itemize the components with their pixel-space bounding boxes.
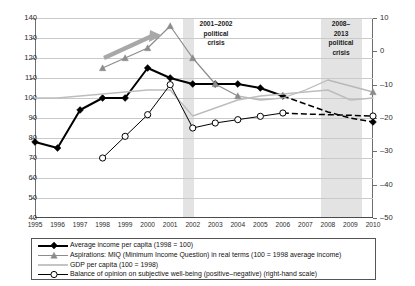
legend-key-marker xyxy=(48,270,60,279)
legend-label: Aspirations: MIQ (Minimum Income Questio… xyxy=(70,252,341,259)
series-marker xyxy=(122,133,128,139)
legend-key xyxy=(32,260,70,269)
series-marker xyxy=(99,65,105,71)
series-average-income-per-capita-1998-100 xyxy=(32,65,377,152)
legend-marker-glyph xyxy=(51,252,57,258)
series-marker xyxy=(212,120,218,126)
series-marker xyxy=(257,85,264,92)
series-marker xyxy=(234,81,241,88)
series-line xyxy=(35,68,283,148)
legend-item: Aspirations: MIQ (Minimum Income Questio… xyxy=(32,251,375,261)
series-line xyxy=(35,90,373,116)
legend-key-line xyxy=(38,264,68,265)
aspirations-trend-arrow xyxy=(104,30,162,58)
legend-marker-glyph xyxy=(51,242,58,249)
series-aspirations-miq-minimum-income-questio xyxy=(99,23,376,100)
legend-key xyxy=(32,270,70,279)
legend-item: GDP per capita (100 = 1998) xyxy=(32,260,375,270)
legend-label: GDP per capita (100 = 1998) xyxy=(70,262,158,269)
legend-key-marker xyxy=(48,241,60,250)
series-marker xyxy=(370,113,376,119)
series-marker xyxy=(145,112,151,118)
series-marker xyxy=(32,139,39,146)
legend-item: Average income per capita (1998 = 100) xyxy=(32,241,375,251)
legend-key xyxy=(32,251,70,260)
series-marker xyxy=(189,81,196,88)
series-marker xyxy=(370,119,377,126)
series-marker xyxy=(167,82,173,88)
series-marker xyxy=(257,113,263,119)
legend-marker-glyph xyxy=(51,271,57,277)
series-gdp-per-capita-100-1998 xyxy=(35,90,373,116)
series-marker xyxy=(190,125,196,131)
legend-key xyxy=(32,241,70,250)
series-marker xyxy=(167,75,174,82)
series-marker xyxy=(122,55,128,61)
legend-item: Balance of opinion on subjective well-be… xyxy=(32,270,375,280)
legend-key-marker xyxy=(48,251,60,260)
series-marker xyxy=(280,110,286,116)
series-marker xyxy=(100,155,106,161)
chart-figure: 2001–2002 political crisis 2008– 2013 po… xyxy=(0,0,415,286)
legend-label: Average income per capita (1998 = 100) xyxy=(70,242,193,249)
chart-legend: Average income per capita (1998 = 100)As… xyxy=(31,238,376,280)
series-marker xyxy=(235,117,241,123)
series-marker xyxy=(167,23,173,29)
series-projection-line xyxy=(283,113,373,116)
legend-label: Balance of opinion on subjective well-be… xyxy=(70,271,317,278)
series-line xyxy=(103,85,283,158)
